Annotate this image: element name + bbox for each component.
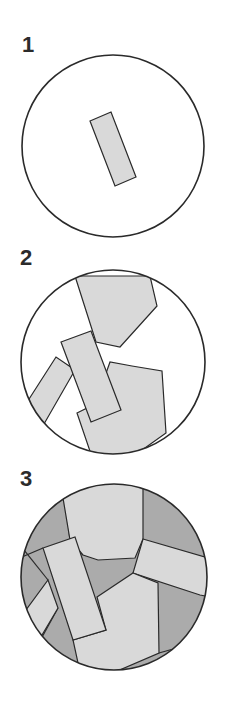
panel-1: [22, 55, 204, 237]
panel-3-boundary: [80, 667, 90, 680]
grain-growth-diagram: [0, 0, 226, 701]
panel-2: [21, 270, 205, 460]
panel-3: [15, 480, 215, 680]
